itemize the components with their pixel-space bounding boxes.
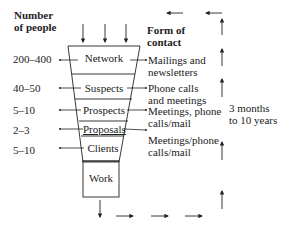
count-network: 200–400 bbox=[13, 53, 52, 65]
contact-prospects-line2: calls/mail bbox=[148, 118, 221, 130]
header-right-line1: Form of bbox=[147, 24, 185, 36]
contact-network-line2: newsletters bbox=[148, 67, 206, 79]
contact-clients: Meetings/phone calls/mail bbox=[148, 135, 219, 158]
stage-suspects: Suspects bbox=[81, 82, 127, 94]
stage-proposals: Proposals bbox=[83, 123, 125, 135]
duration-line1: 3 months bbox=[229, 103, 277, 115]
contact-suspects: Phone calls and meetings bbox=[148, 83, 206, 106]
stage-clients: Clients bbox=[84, 142, 122, 154]
header-right-line2: contact bbox=[147, 36, 185, 48]
contact-network-line1: Mailings and bbox=[148, 55, 206, 67]
input-arrows bbox=[83, 24, 126, 42]
count-prospects: 5–10 bbox=[13, 104, 35, 116]
duration-line2: to 10 years bbox=[229, 115, 277, 127]
contact-clients-line2: calls/mail bbox=[148, 147, 219, 159]
contact-prospects-line1: Meetings, phone bbox=[148, 106, 221, 118]
header-left-line1: Number bbox=[14, 9, 56, 21]
contact-suspects-line1: Phone calls bbox=[148, 83, 206, 95]
stage-network: Network bbox=[78, 52, 130, 64]
count-suspects: 40–50 bbox=[13, 82, 41, 94]
count-proposals: 2–3 bbox=[13, 124, 30, 136]
contact-clients-line1: Meetings/phone bbox=[148, 135, 219, 147]
stage-work: Work bbox=[83, 172, 119, 184]
stage-prospects: Prospects bbox=[81, 104, 127, 116]
duration-label: 3 months to 10 years bbox=[229, 103, 277, 126]
number-of-people-header: Number of people bbox=[14, 9, 56, 33]
bottom-arrows bbox=[100, 200, 202, 217]
form-of-contact-header: Form of contact bbox=[147, 24, 185, 48]
count-clients: 5–10 bbox=[13, 144, 35, 156]
contact-network: Mailings and newsletters bbox=[148, 55, 206, 78]
right-connectors bbox=[124, 60, 146, 130]
header-left-line2: of people bbox=[14, 21, 56, 33]
contact-prospects: Meetings, phone calls/mail bbox=[148, 106, 221, 129]
